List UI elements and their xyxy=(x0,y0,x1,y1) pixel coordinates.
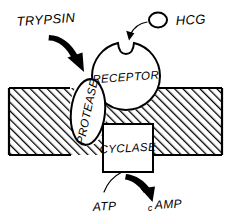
hcg-ligand xyxy=(149,13,167,28)
camp-label-prefix: c xyxy=(148,203,154,213)
camp-arrow-head xyxy=(141,187,156,203)
atp-to-cyclase-line xyxy=(104,172,122,192)
hcg-label: HCG xyxy=(175,11,206,28)
trypsin-label: TRYPSIN xyxy=(16,10,76,29)
trypsin-to-protease-arrow xyxy=(49,35,85,72)
cyclase-box: CYCLASE xyxy=(99,124,156,172)
atp-line-shaft xyxy=(104,172,122,192)
hcg-oval-outline xyxy=(149,13,167,28)
diagram-canvas: RECEPTOR PROTEASE CYCLASE xyxy=(0,0,231,224)
trypsin-arrow-head xyxy=(68,53,85,73)
cyclase-to-camp-arrow xyxy=(125,174,155,202)
biology-signal-transduction-diagram: RECEPTOR PROTEASE CYCLASE xyxy=(0,0,231,224)
hcg-arrow-head xyxy=(126,31,134,41)
hcg-to-receptor-arrow xyxy=(126,22,147,41)
atp-label: ATP xyxy=(91,199,116,214)
camp-label-suffix: AMP xyxy=(153,197,182,212)
